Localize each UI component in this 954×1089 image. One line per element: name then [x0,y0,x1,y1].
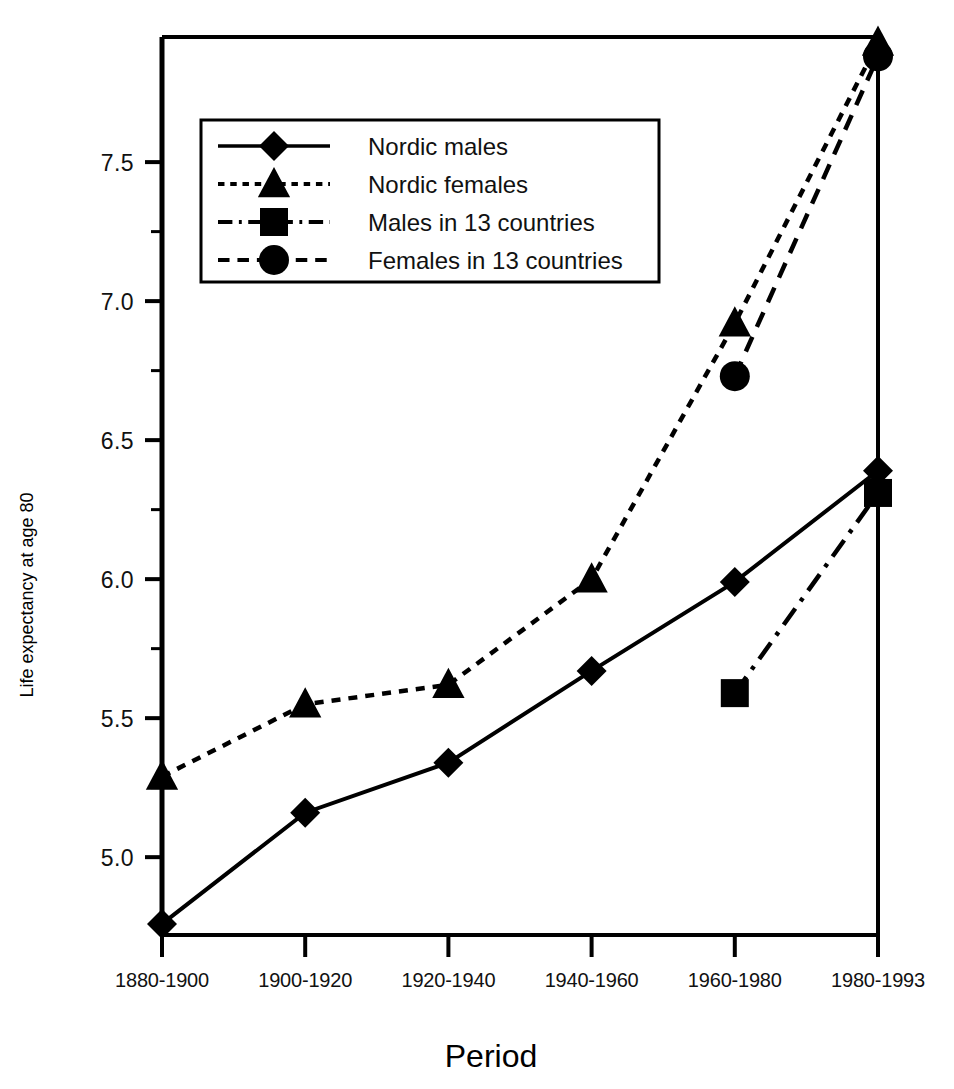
y-tick-label: 5.5 [101,706,134,732]
data-point-marker [864,479,892,507]
legend-marker-square-icon [260,208,288,236]
life-expectancy-line-chart: 5.05.56.06.57.07.5 1880-19001900-1920192… [0,0,954,1089]
legend-label: Females in 13 countries [368,247,623,274]
x-tick-label: 1940-1960 [545,969,639,991]
y-tick-label: 6.5 [101,428,134,454]
data-point-marker [863,41,893,71]
x-tick-label: 1900-1920 [258,969,352,991]
x-tick-label: 1920-1940 [401,969,495,991]
x-axis-title: Period [445,1038,538,1074]
chart-figure: 5.05.56.06.57.07.5 1880-19001900-1920192… [0,0,954,1089]
x-tick-label: 1980-1993 [831,969,925,991]
legend-item-males-in-13-countries[interactable]: Males in 13 countries [218,208,595,236]
legend-item-females-in-13-countries[interactable]: Females in 13 countries [218,245,623,275]
data-point-marker [720,361,750,391]
legend-label: Males in 13 countries [368,209,595,236]
legend-label: Nordic males [368,133,508,160]
legend-label: Nordic females [368,171,528,198]
legend-marker-circle-icon [259,245,289,275]
data-point-marker [721,679,749,707]
y-tick-label: 7.5 [101,150,134,176]
y-tick-label: 5.0 [101,845,134,871]
y-tick-label: 7.0 [101,289,134,315]
chart-legend: Nordic malesNordic femalesMales in 13 co… [201,120,659,282]
y-tick-label: 6.0 [101,567,134,593]
x-tick-label: 1960-1980 [688,969,782,991]
y-axis-title: Life expectancy at age 80 [17,492,37,697]
x-tick-label: 1880-1900 [115,969,209,991]
